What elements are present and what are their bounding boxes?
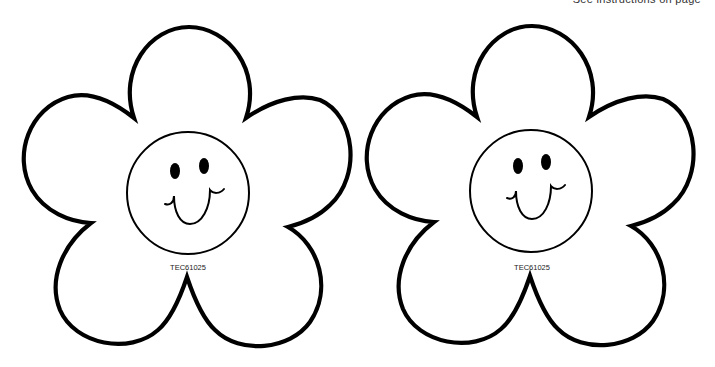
right-eye bbox=[541, 154, 551, 170]
product-code-label: TEC61025 bbox=[170, 263, 206, 272]
left-eye bbox=[170, 163, 180, 179]
product-code-label: TEC61025 bbox=[514, 263, 550, 272]
left-eye bbox=[513, 158, 523, 174]
face-circle bbox=[127, 132, 249, 254]
smiley-face-icon bbox=[127, 132, 249, 254]
face-circle bbox=[470, 130, 592, 252]
right-eye bbox=[199, 158, 209, 174]
smiley-face-icon bbox=[470, 130, 592, 252]
flower-right: TEC61025 bbox=[367, 26, 694, 345]
flower-left: TEC61025 bbox=[24, 27, 351, 346]
